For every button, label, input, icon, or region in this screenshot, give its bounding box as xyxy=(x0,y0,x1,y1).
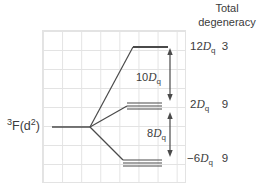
energy-label-minus6dq: −6Dq xyxy=(187,152,213,168)
term-body: F(d xyxy=(12,119,31,133)
arrowhead-down-icon xyxy=(167,94,172,101)
energy-label-2dq: 2Dq xyxy=(190,98,209,114)
term-close: ) xyxy=(36,119,40,133)
lower-level-lines xyxy=(123,160,162,166)
branch-lower-line xyxy=(90,127,123,160)
energy-label-12dq: 12Dq xyxy=(190,40,216,56)
header-line1: Total xyxy=(187,2,267,16)
degeneracy-value-middle: 9 xyxy=(216,98,234,110)
splitting-10dq-label: 10Dq xyxy=(136,71,161,87)
splitting-arrow-8dq xyxy=(167,112,172,157)
arrowhead-up-icon xyxy=(167,112,172,119)
arrowhead-up-icon xyxy=(167,48,172,55)
arrowhead-down-icon xyxy=(167,150,172,157)
degeneracy-value-lower: 9 xyxy=(216,152,234,164)
crystal-field-splitting-diagram: 3F(d2) 10Dq 8Dq Total degeneracy 12Dq 2D… xyxy=(0,0,275,188)
splitting-arrow-10dq xyxy=(167,48,172,101)
header-line2: degeneracy xyxy=(187,16,267,30)
splitting-8dq-label: 8Dq xyxy=(147,127,166,143)
degeneracy-value-upper: 3 xyxy=(216,40,234,52)
free-ion-term-label: 3F(d2) xyxy=(7,118,40,134)
total-degeneracy-header: Total degeneracy xyxy=(187,2,267,30)
middle-level-lines xyxy=(127,103,162,109)
